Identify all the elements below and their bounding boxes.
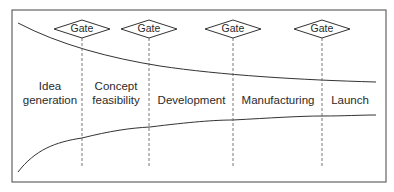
- gate-label-2: Gate: [129, 22, 169, 34]
- stage-idea-generation: Idea generation: [18, 79, 82, 107]
- stage-label-line2: generation: [18, 93, 82, 107]
- gate-label-1: Gate: [62, 22, 102, 34]
- gate-label-4: Gate: [302, 22, 342, 34]
- stage-concept-feasibility: Concept feasibility: [84, 79, 148, 107]
- stage-launch: Launch: [323, 93, 377, 107]
- stage-manufacturing: Manufacturing: [234, 93, 322, 107]
- stage-development: Development: [150, 93, 233, 107]
- stage-label-line1: Idea: [18, 79, 82, 93]
- gate-label-3: Gate: [213, 22, 253, 34]
- stage-label-line1: Concept: [84, 79, 148, 93]
- stage-label-line2: feasibility: [84, 93, 148, 107]
